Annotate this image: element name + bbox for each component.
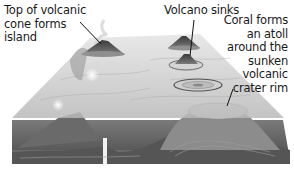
label-line: volcanic [224, 68, 288, 82]
label-volcanic-island: Top of volcanic cone forms island [4, 4, 86, 45]
label-line: crater rim [224, 82, 288, 96]
label-line: an atoll [224, 28, 288, 42]
label-line: Top of volcanic [4, 4, 86, 18]
label-line: island [4, 31, 86, 45]
label-line: cone forms [4, 18, 86, 32]
atoll-formation-diagram: Top of volcanic cone forms island Volcan… [0, 0, 294, 171]
atoll-ring [174, 79, 222, 91]
label-line: around the [224, 41, 288, 55]
label-line: Coral forms [224, 14, 288, 28]
label-coral-atoll: Coral forms an atoll around the sunken v… [224, 14, 288, 95]
label-line: sunken [224, 55, 288, 69]
